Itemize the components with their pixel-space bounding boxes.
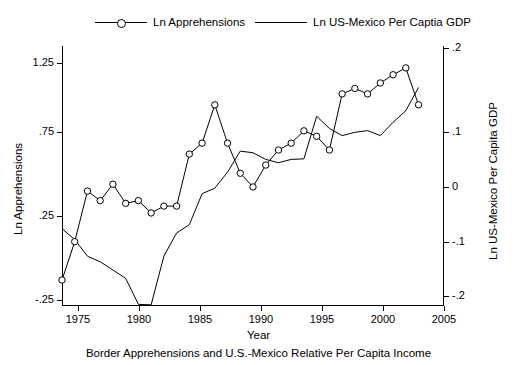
series-gdp-path <box>62 87 419 304</box>
chart-container: Ln Apprehensions Ln US-Mexico Per Captia… <box>0 0 517 365</box>
chart-data-layer <box>0 0 517 365</box>
series-apprehensions-markers <box>59 65 422 284</box>
